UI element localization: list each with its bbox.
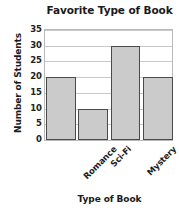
bar-chart-figure: Favorite Type of Book Number of Students…	[0, 0, 179, 213]
x-axis-tick-labels: RomanceSci-FiMysteryAdventure	[0, 0, 179, 213]
x-axis-tick-label: Mystery	[145, 144, 178, 177]
x-axis-title: Type of Book	[40, 194, 179, 204]
